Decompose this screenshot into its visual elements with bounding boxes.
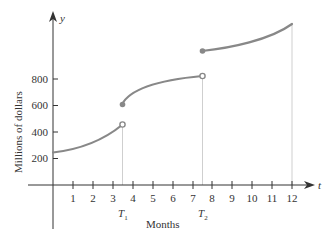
x-tick-label: 3 — [110, 192, 116, 204]
y-tick-label: 800 — [32, 73, 49, 85]
x-tick-label: 6 — [170, 192, 176, 204]
curve-segment-3 — [202, 24, 292, 51]
open-point-t1 — [120, 122, 125, 127]
t2-label: T2 — [198, 207, 208, 222]
curve-segment-1 — [53, 125, 122, 153]
x-tick-label: 12 — [287, 192, 298, 204]
x-tick-label: 8 — [209, 192, 215, 204]
y-ticks: 200 400 600 800 — [32, 73, 59, 164]
x-tick-label: 1 — [70, 192, 76, 204]
chart: y t 200 400 600 800 1 2 3 4 5 6 7 8 9 — [0, 0, 326, 240]
y-axis-title: Millions of dollars — [12, 91, 24, 173]
x-tick-label: 10 — [247, 192, 259, 204]
x-axis-title: Months — [146, 218, 180, 230]
closed-point-t2 — [200, 48, 206, 54]
y-tick-label: 200 — [32, 152, 49, 164]
x-tick-label: 4 — [130, 192, 136, 204]
x-ticks: 1 2 3 4 5 6 7 8 9 10 11 12 — [70, 181, 297, 204]
x-axis-var: t — [318, 179, 322, 191]
y-tick-label: 400 — [32, 126, 49, 138]
closed-point-t1 — [120, 102, 126, 108]
open-point-t2 — [200, 73, 205, 78]
x-tick-label: 5 — [150, 192, 156, 204]
y-axis-var: y — [59, 12, 65, 24]
t1-label: T1 — [118, 207, 128, 222]
x-tick-label: 2 — [90, 192, 96, 204]
x-tick-label: 9 — [229, 192, 235, 204]
y-tick-label: 600 — [32, 99, 49, 111]
curve-segment-2 — [122, 76, 202, 105]
x-tick-label: 7 — [190, 192, 196, 204]
x-tick-label: 11 — [267, 192, 278, 204]
